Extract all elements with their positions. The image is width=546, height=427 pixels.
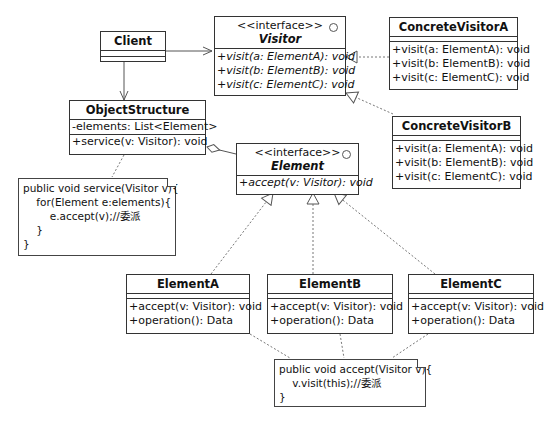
methods-compartment: +accept(v: Visitor): void: [237, 176, 358, 190]
method: +visit(c: ElementC): void: [215, 78, 345, 92]
methods-compartment: +visit(a: ElementA): void +visit(b: Elem…: [393, 141, 520, 184]
stereotype: <<interface>>: [217, 19, 343, 32]
method: +visit(b: ElementB): void: [393, 156, 520, 170]
class-name: ElementA: [127, 275, 249, 294]
method: +visit(a: ElementA): void: [390, 43, 517, 57]
method: +visit(a: ElementA): void: [393, 142, 520, 156]
cvb-visitor-realization: [346, 93, 393, 114]
methods-compartment: +accept(v: Visitor): void +operation(): …: [409, 299, 533, 328]
interface-circle-icon: [342, 150, 351, 159]
class-concrete-visitor-b[interactable]: ConcreteVisitorB +visit(a: ElementA): vo…: [392, 116, 521, 189]
method: +accept(v: Visitor): void: [409, 300, 533, 314]
attributes-compartment: -elements: List<Element>: [70, 120, 205, 135]
method: +operation(): Data: [268, 314, 392, 328]
note-accept: public void accept(Visitor v){ v.visit(t…: [274, 359, 426, 407]
method: +visit(c: ElementC): void: [393, 170, 520, 184]
class-name: ElementC: [409, 275, 533, 294]
note-fold-corner: [417, 359, 426, 368]
interface-element[interactable]: <<interface>> Element +accept(v: Visitor…: [236, 143, 359, 195]
class-name: Client: [101, 32, 165, 51]
class-name: ElementB: [268, 275, 392, 294]
methods-compartment: +visit(a: ElementA): void +visit(b: Elem…: [390, 42, 517, 85]
class-client[interactable]: Client: [100, 31, 166, 62]
elementa-element-realization: [211, 193, 273, 274]
class-concrete-visitor-a[interactable]: ConcreteVisitorA +visit(a: ElementA): vo…: [389, 17, 518, 90]
elementc-element-realization: [334, 193, 435, 274]
stereotype: <<interface>>: [239, 146, 356, 159]
methods-compartment: +accept(v: Visitor): void +operation(): …: [268, 299, 392, 328]
class-element-b[interactable]: ElementB +accept(v: Visitor): void +oper…: [267, 274, 393, 334]
method: +service(v: Visitor): void: [70, 135, 205, 149]
class-element-a[interactable]: ElementA +accept(v: Visitor): void +oper…: [126, 274, 250, 334]
class-name: ObjectStructure: [70, 101, 205, 120]
interface-visitor[interactable]: <<interface>> Visitor +visit(a: ElementA…: [214, 16, 346, 96]
methods-compartment: [101, 57, 165, 61]
interface-circle-icon: [329, 23, 338, 32]
method: +visit(a: ElementA): void: [215, 50, 345, 64]
class-object-structure[interactable]: ObjectStructure -elements: List<Element>…: [69, 100, 206, 155]
class-element-c[interactable]: ElementC +accept(v: Visitor): void +oper…: [408, 274, 534, 334]
objectstructure-element-aggregation: [207, 147, 236, 154]
accept-note-anchor-b: [340, 334, 344, 358]
method: +visit(b: ElementB): void: [215, 64, 345, 78]
method: +accept(v: Visitor): void: [127, 300, 249, 314]
class-name: ConcreteVisitorA: [390, 18, 517, 37]
accept-note-anchor-a: [250, 334, 290, 358]
method: +accept(v: Visitor): void: [268, 300, 392, 314]
attribute: -elements: List<Element>: [70, 120, 205, 134]
class-name: Element: [271, 159, 324, 173]
methods-compartment: +visit(a: ElementA): void +visit(b: Elem…: [215, 49, 345, 92]
accept-note-anchor-c: [392, 334, 428, 358]
methods-compartment: +accept(v: Visitor): void +operation(): …: [127, 299, 249, 328]
method: +operation(): Data: [409, 314, 533, 328]
interface-header: <<interface>> Visitor: [215, 17, 345, 49]
method: +accept(v: Visitor): void: [237, 176, 358, 190]
methods-compartment: +service(v: Visitor): void: [70, 135, 205, 149]
service-note-anchor: [112, 155, 124, 177]
interface-header: <<interface>> Element: [237, 144, 358, 176]
class-name: Visitor: [259, 32, 302, 46]
method: +visit(b: ElementB): void: [390, 57, 517, 71]
class-name: ConcreteVisitorB: [393, 117, 520, 136]
note-fold-corner: [167, 178, 176, 187]
method: +operation(): Data: [127, 314, 249, 328]
method: +visit(c: ElementC): void: [390, 71, 517, 85]
note-service: public void service(Visitor v){ for(Elem…: [18, 178, 176, 256]
